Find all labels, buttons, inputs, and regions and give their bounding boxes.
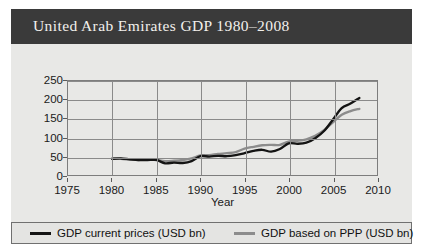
chart-figure: United Arab Emirates GDP 1980–2008 05010… [0, 0, 426, 252]
x-axis-tick-label: 1980 [88, 184, 134, 196]
legend-label: GDP based on PPP (USD bn) [261, 227, 413, 239]
gridline-vertical [335, 81, 336, 175]
page-title: United Arab Emirates GDP 1980–2008 [33, 17, 290, 35]
chart-title-bar: United Arab Emirates GDP 1980–2008 [11, 9, 412, 44]
x-axis-tick-label: 1995 [222, 184, 268, 196]
gridline-horizontal [68, 119, 377, 120]
gridline-vertical [246, 81, 247, 175]
gridline-vertical [112, 81, 113, 175]
x-axis-tick-mark [200, 178, 201, 182]
y-axis-tick-label: 0 [23, 171, 63, 181]
legend-entry: GDP based on PPP (USD bn) [234, 226, 413, 240]
x-axis-tick-label: 2005 [311, 184, 357, 196]
gridline-horizontal [68, 100, 377, 101]
gridline-vertical [157, 81, 158, 175]
gridline-vertical [201, 81, 202, 175]
series-line [112, 109, 359, 161]
x-axis-tick-mark [334, 178, 335, 182]
y-axis: 050100150200250 [19, 80, 63, 176]
x-axis-tick-mark [156, 178, 157, 182]
legend-line-swatch-icon [30, 232, 51, 235]
plot-area [67, 80, 378, 176]
x-axis-tick-label: 1985 [133, 184, 179, 196]
gridline-horizontal [68, 139, 377, 140]
gridline-vertical [290, 81, 291, 175]
x-axis-tick-label: 1975 [44, 184, 90, 196]
chart-panel: 050100150200250 197519801985199019952000… [11, 44, 412, 244]
x-axis-tick-mark [111, 178, 112, 182]
x-axis-tick-label: 1990 [177, 184, 223, 196]
x-axis-tick-label: 2010 [355, 184, 401, 196]
legend-entry: GDP current prices (USD bn) [30, 226, 206, 240]
legend-label: GDP current prices (USD bn) [57, 227, 206, 239]
x-axis-tick-mark [67, 178, 68, 182]
gridline-horizontal [68, 81, 377, 82]
y-axis-tick-label: 150 [23, 113, 63, 123]
series-layer [68, 81, 377, 175]
y-axis-tick-label: 200 [23, 94, 63, 104]
y-axis-tick-label: 250 [23, 75, 63, 85]
y-axis-tick-label: 50 [23, 152, 63, 162]
x-axis-tick-label: 2000 [266, 184, 312, 196]
x-axis-tick-mark [289, 178, 290, 182]
x-axis-title: Year [67, 196, 378, 208]
x-axis-tick-mark [378, 178, 379, 182]
legend-line-swatch-icon [234, 232, 255, 235]
y-axis-tick-label: 100 [23, 133, 63, 143]
gridline-horizontal [68, 158, 377, 159]
chart-legend: GDP current prices (USD bn)GDP based on … [11, 222, 412, 244]
y-axis-tick-mark [63, 176, 67, 177]
x-axis-tick-mark [245, 178, 246, 182]
x-axis: 19751980198519901995200020052010 [67, 178, 378, 196]
